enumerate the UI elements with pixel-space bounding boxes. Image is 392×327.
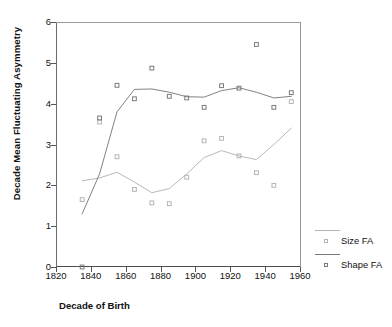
data-point [167,94,171,98]
data-point [289,91,293,95]
chart-container: 0123456 18201840186018801900192019401960… [0,0,392,327]
data-point [150,66,154,70]
legend-item-shape-fa[interactable]: Shape FA [311,252,391,276]
y-axis-title: Decade Mean Fluctuating Asymmetry [11,14,22,214]
data-point [167,202,171,206]
series-line [82,88,291,214]
data-point [202,105,206,109]
data-point [115,83,119,87]
legend-label: Size FA [341,236,373,246]
legend-label: Shape FA [341,260,382,270]
data-point [202,139,206,143]
data-point [98,116,102,120]
data-point [255,171,259,175]
data-point [133,97,137,101]
data-point [98,120,102,124]
data-point [115,155,119,159]
legend-marker-swatch [324,263,328,267]
data-point [150,201,154,205]
legend-line-swatch [315,254,340,255]
x-axis-title: Decade of Birth [59,300,130,311]
legend-item-size-fa[interactable]: Size FA [311,228,391,252]
data-point [80,198,84,202]
data-point [272,105,276,109]
data-point [289,100,293,104]
data-point [80,265,84,269]
data-point [220,136,224,140]
data-layer [0,0,392,327]
data-point [272,183,276,187]
series-size-fa [80,100,293,206]
legend-marker-swatch [324,239,328,243]
series-line [82,128,291,193]
data-point [255,43,259,47]
data-point [220,84,224,88]
data-point [133,188,137,192]
chart-legend: Size FAShape FA [311,228,391,276]
data-point [185,175,189,179]
legend-line-swatch [315,230,340,231]
